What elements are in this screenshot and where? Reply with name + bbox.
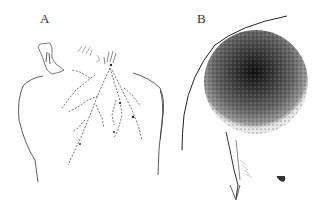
shoulder-chest-drawing <box>160 0 327 208</box>
panel-b-label: B <box>197 11 206 27</box>
back-torso-drawing <box>0 0 165 208</box>
panel-b: B <box>160 0 327 208</box>
lesion <box>204 30 308 134</box>
panel-a-label: A <box>40 11 49 27</box>
panel-a: A <box>0 0 165 208</box>
